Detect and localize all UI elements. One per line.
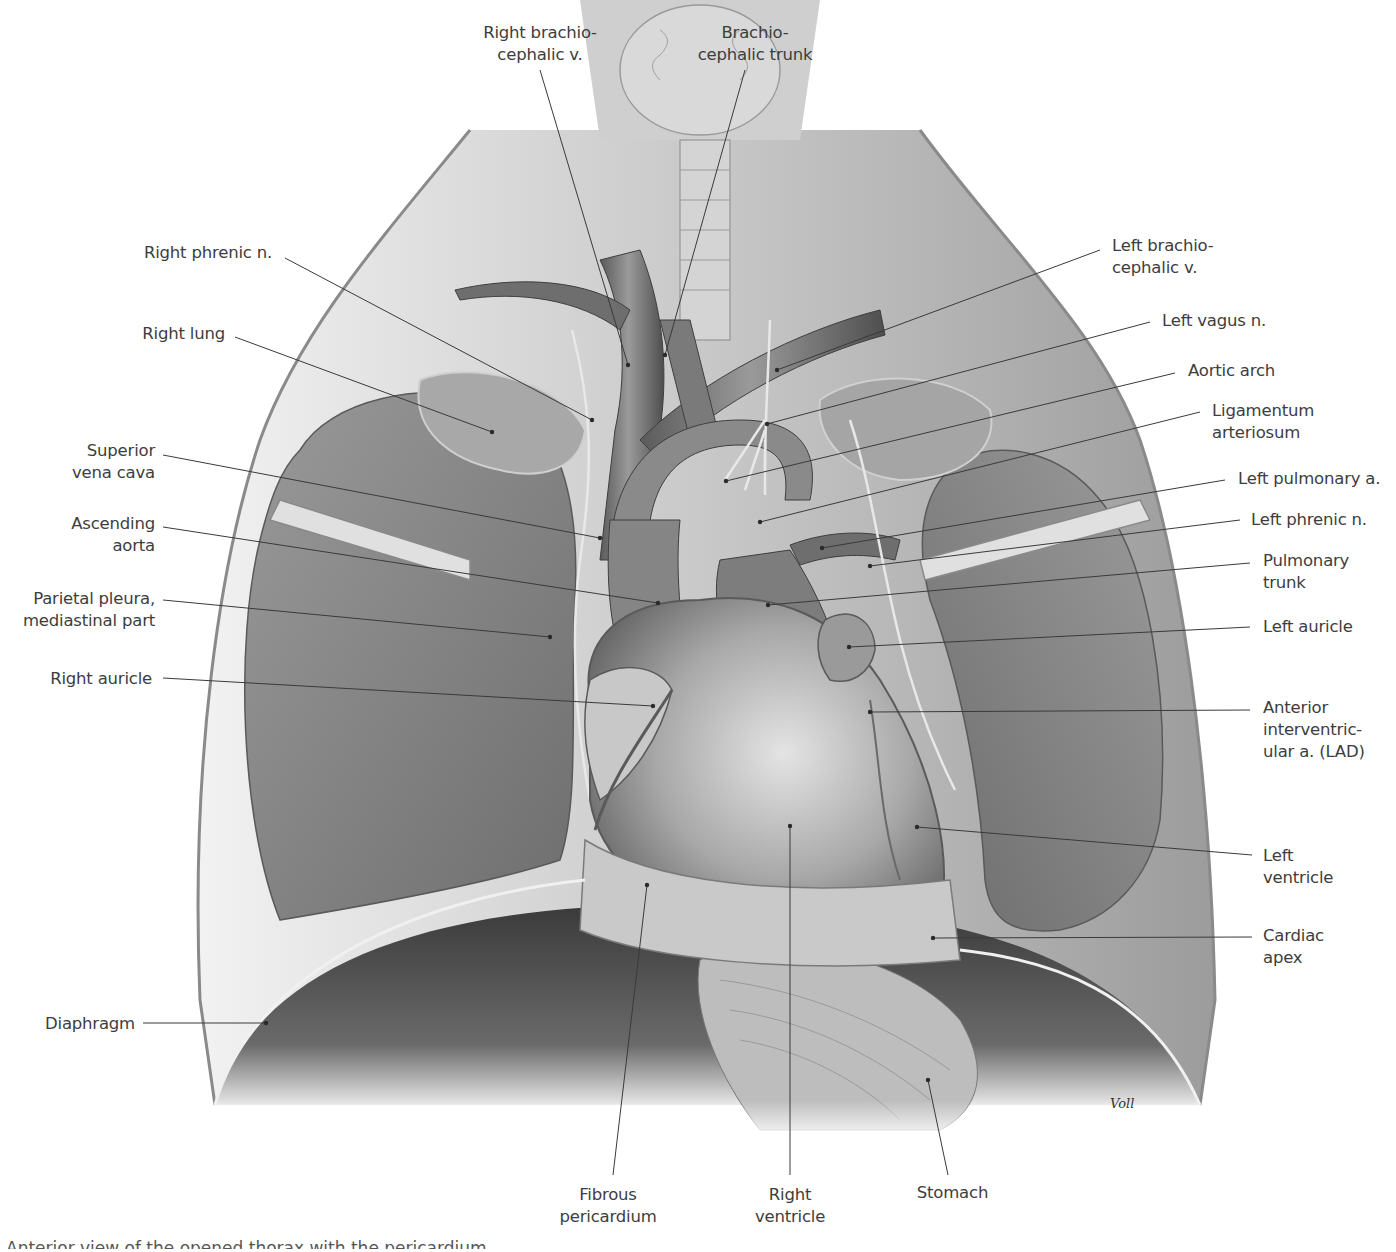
leader-dot-fibrous-pericardium [645, 883, 649, 887]
label-stomach: Stomach [900, 1182, 1005, 1204]
label-ligamentum-arteriosum: Ligamentum arteriosum [1212, 400, 1352, 444]
label-brachiocephalic-trunk: Brachio- cephalic trunk [680, 22, 830, 66]
leader-dot-left-brachiocephalic-v [775, 368, 779, 372]
label-aortic-arch: Aortic arch [1188, 360, 1328, 382]
leader-dot-ascending-aorta [656, 601, 660, 605]
label-right-lung: Right lung [100, 323, 225, 345]
leader-dot-right-lung [490, 430, 494, 434]
label-right-ventricle: Right ventricle [740, 1184, 840, 1228]
bottom-fade [200, 1100, 1220, 1140]
leader-dot-left-auricle [847, 645, 851, 649]
leader-dot-left-pulmonary-a [820, 546, 824, 550]
leader-dot-cardiac-apex [931, 936, 935, 940]
label-anterior-interventricular-a: Anterior interventric- ular a. (LAD) [1263, 697, 1393, 763]
leader-dot-brachiocephalic-trunk [663, 353, 667, 357]
leader-dot-right-auricle [651, 704, 655, 708]
leader-dot-diaphragm [264, 1021, 268, 1025]
leader-dot-right-brachiocephalic-v [626, 363, 630, 367]
thorax-heart-illustration [0, 0, 1396, 1252]
label-left-brachiocephalic-v: Left brachio- cephalic v. [1112, 235, 1262, 279]
leader-dot-right-ventricle [788, 824, 792, 828]
leader-dot-ligamentum-arteriosum [758, 520, 762, 524]
artist-signature: Voll [1110, 1096, 1134, 1111]
label-left-pulmonary-a: Left pulmonary a. [1238, 468, 1396, 490]
leader-dot-left-ventricle [915, 825, 919, 829]
leader-dot-parietal-pleura [548, 635, 552, 639]
leader-dot-aortic-arch [724, 479, 728, 483]
leader-dot-left-vagus-n [765, 422, 769, 426]
label-right-auricle: Right auricle [20, 668, 152, 690]
label-fibrous-pericardium: Fibrous pericardium [548, 1184, 668, 1228]
leader-dot-pulmonary-trunk [766, 603, 770, 607]
label-right-brachiocephalic-v: Right brachio- cephalic v. [470, 22, 610, 66]
label-right-phrenic-n: Right phrenic n. [100, 242, 272, 264]
label-cardiac-apex: Cardiac apex [1263, 925, 1373, 969]
label-ascending-aorta: Ascending aorta [50, 513, 155, 557]
label-left-auricle: Left auricle [1263, 616, 1383, 638]
label-left-ventricle: Left ventricle [1263, 845, 1373, 889]
label-left-phrenic-n: Left phrenic n. [1251, 509, 1396, 531]
leader-dot-left-phrenic-n [868, 564, 872, 568]
label-left-vagus-n: Left vagus n. [1162, 310, 1302, 332]
leader-dot-anterior-interventricular-a [868, 710, 872, 714]
label-superior-vena-cava: Superior vena cava [50, 440, 155, 484]
leader-dot-stomach [926, 1078, 930, 1082]
leader-dot-superior-vena-cava [598, 536, 602, 540]
label-diaphragm: Diaphragm [10, 1013, 135, 1035]
label-parietal-pleura: Parietal pleura, mediastinal part [10, 588, 155, 632]
label-pulmonary-trunk: Pulmonary trunk [1263, 550, 1383, 594]
leader-dot-right-phrenic-n [590, 418, 594, 422]
